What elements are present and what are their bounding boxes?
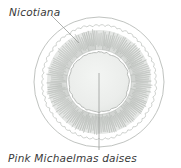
circular-planting-plan-drawing <box>0 0 181 168</box>
label-pink-michaelmas-daises: Pink Michaelmas daises <box>8 153 137 164</box>
garden-plan-figure: Nicotiana Pink Michaelmas daises <box>0 0 181 168</box>
label-nicotiana: Nicotiana <box>9 7 60 18</box>
